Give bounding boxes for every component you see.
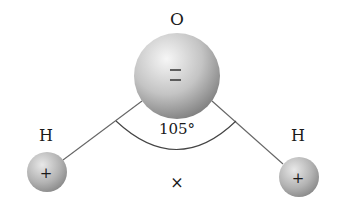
hydrogen-right-label: H bbox=[291, 126, 305, 145]
oxygen-atom bbox=[134, 33, 220, 119]
oxygen-label: O bbox=[170, 9, 184, 29]
bond-left bbox=[63, 101, 142, 160]
hydrogen-left-label: H bbox=[39, 126, 53, 145]
bond-angle-label: 105° bbox=[159, 120, 195, 138]
hydrogen-right-charge-icon: + bbox=[292, 169, 305, 187]
center-mark: × bbox=[170, 173, 183, 192]
hydrogen-left-charge-icon: + bbox=[40, 164, 53, 182]
water-molecule-diagram: O 105° × H + H + bbox=[0, 0, 343, 217]
